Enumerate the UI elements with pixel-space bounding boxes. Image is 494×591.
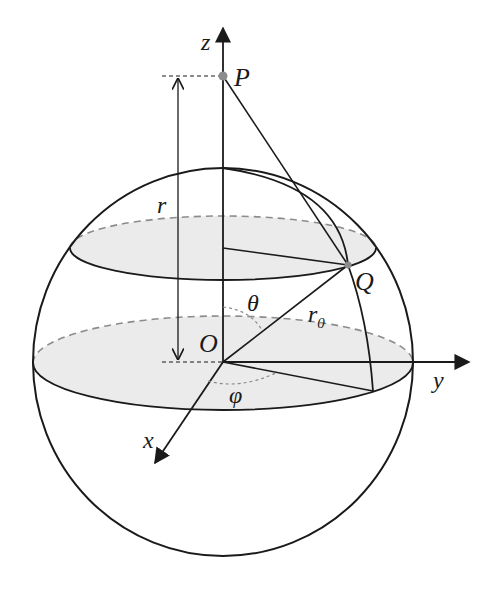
x-axis-label: x xyxy=(142,427,154,453)
radius-r0-label: r0 xyxy=(308,301,325,331)
radius-r0-subscript: 0 xyxy=(317,315,325,331)
distance-r-label: r xyxy=(157,192,167,218)
point-p-label: P xyxy=(233,63,250,92)
origin-label: O xyxy=(199,329,218,358)
point-p-dot xyxy=(219,72,228,81)
phi-label: φ xyxy=(229,382,242,408)
theta-label: θ xyxy=(247,290,259,316)
z-axis-label: z xyxy=(200,29,211,55)
point-q-dot xyxy=(345,262,352,269)
y-axis-label: y xyxy=(431,367,444,393)
point-q-label: Q xyxy=(355,267,374,296)
spherical-coordinates-diagram: z P r Q θ r0 O y φ x xyxy=(0,0,494,591)
